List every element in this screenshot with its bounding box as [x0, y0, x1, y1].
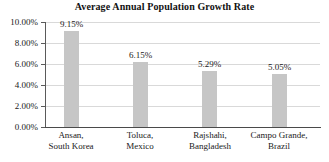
- y-tick-label-6: 6.00%: [0, 59, 38, 69]
- gridline-8: [46, 43, 320, 44]
- bar-value-label-0: 9.15%: [60, 19, 83, 29]
- chart-title: Average Annual Population Growth Rate: [0, 1, 329, 12]
- x-category-label-0-line1: Ansan,: [58, 130, 83, 140]
- y-tick-label-8: 8.00%: [0, 38, 38, 48]
- bar-campo-grande-brazil[interactable]: [272, 74, 287, 127]
- y-tick-label-0: 0.00%: [0, 122, 38, 132]
- x-category-label-3-line2: Brazil: [251, 141, 308, 152]
- y-tick-label-4: 4.00%: [0, 80, 38, 90]
- x-category-label-1-line1: Toluca,: [127, 130, 154, 140]
- x-category-label-3: Campo Grande, Brazil: [251, 130, 308, 152]
- x-category-label-0-line2: South Korea: [48, 141, 93, 152]
- x-category-label-2-line2: Bangladesh: [189, 141, 231, 152]
- bar-value-label-1: 6.15%: [129, 50, 152, 60]
- bar-rajshahi-bangladesh[interactable]: [202, 71, 217, 127]
- x-category-label-2: Rajshahi, Bangladesh: [189, 130, 231, 152]
- bar-value-label-3: 5.05%: [268, 62, 291, 72]
- y-tick-label-10: 10.00%: [0, 17, 38, 27]
- bar-value-label-2: 5.29%: [198, 59, 221, 69]
- bar-ansan-south-korea[interactable]: [64, 31, 79, 127]
- gridline-10: [46, 22, 320, 23]
- plot-area: [46, 22, 320, 127]
- x-category-label-1-line2: Mexico: [126, 141, 154, 152]
- chart-figure: Average Annual Population Growth Rate 10…: [0, 0, 329, 162]
- bar-toluca-mexico[interactable]: [133, 62, 148, 127]
- x-category-label-2-line1: Rajshahi,: [193, 130, 227, 140]
- y-tick-label-2: 2.00%: [0, 101, 38, 111]
- x-category-label-3-line1: Campo Grande,: [251, 130, 308, 140]
- x-axis-line: [45, 127, 321, 128]
- x-category-label-0: Ansan, South Korea: [48, 130, 93, 152]
- x-category-label-1: Toluca, Mexico: [126, 130, 154, 152]
